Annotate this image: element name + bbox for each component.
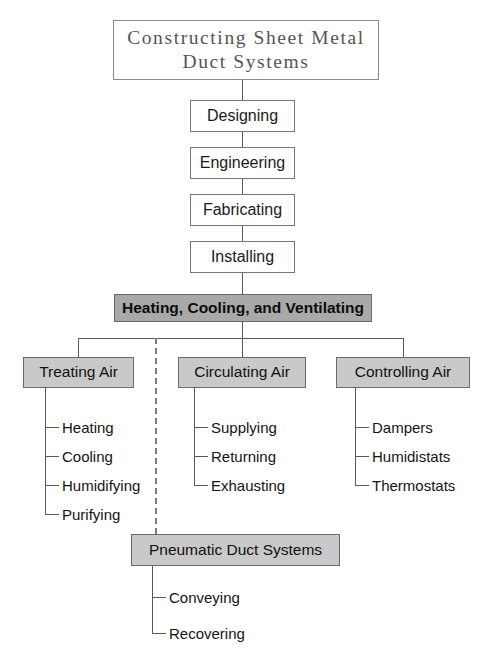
node-engineering: Engineering bbox=[190, 147, 295, 179]
leaf-supplying: Supplying bbox=[211, 420, 277, 435]
node-installing-label: Installing bbox=[211, 247, 274, 267]
node-pneumatic-duct-systems-label: Pneumatic Duct Systems bbox=[149, 541, 322, 560]
tick-thermostats bbox=[355, 485, 369, 486]
leaf-cooling: Cooling bbox=[62, 449, 113, 464]
node-heating-cooling-ventilating-label: Heating, Cooling, and Ventilating bbox=[122, 299, 364, 318]
leaf-returning: Returning bbox=[211, 449, 276, 464]
node-treating-air-label: Treating Air bbox=[39, 363, 118, 382]
node-title: Constructing Sheet Metal Duct Systems bbox=[113, 20, 379, 80]
leaf-heating: Heating bbox=[62, 420, 114, 435]
node-pneumatic-duct-systems: Pneumatic Duct Systems bbox=[131, 534, 340, 566]
title-line-1: Constructing Sheet Metal bbox=[127, 26, 365, 50]
connector-designing-to-engineering bbox=[242, 132, 243, 147]
leaf-purifying: Purifying bbox=[62, 507, 120, 522]
node-circulating-air-label: Circulating Air bbox=[194, 363, 290, 382]
connector-title-to-designing bbox=[242, 80, 243, 100]
leaf-recovering: Recovering bbox=[169, 626, 245, 641]
leaf-dampers: Dampers bbox=[372, 420, 433, 435]
connector-fabricating-to-installing bbox=[242, 226, 243, 241]
node-treating-air: Treating Air bbox=[23, 357, 134, 388]
spine-treating-air bbox=[45, 388, 46, 514]
tick-exhausting bbox=[194, 485, 208, 486]
node-fabricating: Fabricating bbox=[190, 194, 295, 226]
node-engineering-label: Engineering bbox=[200, 153, 285, 173]
leaf-humidistats: Humidistats bbox=[372, 449, 450, 464]
spine-controlling-air bbox=[355, 388, 356, 485]
tick-cooling bbox=[45, 456, 59, 457]
node-installing: Installing bbox=[190, 241, 295, 273]
node-fabricating-label: Fabricating bbox=[203, 200, 282, 220]
tick-humidifying bbox=[45, 485, 59, 486]
node-heating-cooling-ventilating: Heating, Cooling, and Ventilating bbox=[114, 294, 372, 322]
tick-recovering bbox=[152, 633, 166, 634]
tick-heating bbox=[45, 427, 59, 428]
connector-dashed-to-pneumatic bbox=[155, 338, 157, 534]
leaf-humidifying: Humidifying bbox=[62, 478, 140, 493]
tick-conveying bbox=[152, 597, 166, 598]
tick-returning bbox=[194, 456, 208, 457]
leaf-thermostats: Thermostats bbox=[372, 478, 455, 493]
leaf-conveying: Conveying bbox=[169, 590, 240, 605]
node-controlling-air: Controlling Air bbox=[336, 357, 470, 388]
flowchart-canvas: Constructing Sheet Metal Duct Systems De… bbox=[0, 0, 486, 668]
tick-humidistats bbox=[355, 456, 369, 457]
tick-purifying bbox=[45, 514, 59, 515]
connector-category-bus bbox=[78, 338, 403, 339]
connector-engineering-to-fabricating bbox=[242, 179, 243, 194]
leaf-exhausting: Exhausting bbox=[211, 478, 285, 493]
node-designing: Designing bbox=[190, 100, 295, 132]
connector-bus-to-treating-air bbox=[78, 338, 79, 357]
node-controlling-air-label: Controlling Air bbox=[355, 363, 452, 382]
tick-dampers bbox=[355, 427, 369, 428]
node-designing-label: Designing bbox=[207, 106, 278, 126]
connector-installing-to-highlight bbox=[242, 273, 243, 294]
node-circulating-air: Circulating Air bbox=[178, 357, 306, 388]
tick-supplying bbox=[194, 427, 208, 428]
spine-pneumatic bbox=[152, 566, 153, 633]
spine-circulating-air bbox=[194, 388, 195, 485]
connector-highlight-to-bus bbox=[242, 322, 243, 338]
title-line-2: Duct Systems bbox=[183, 50, 310, 74]
connector-bus-to-circulating-air bbox=[242, 338, 243, 357]
connector-bus-to-controlling-air bbox=[403, 338, 404, 357]
